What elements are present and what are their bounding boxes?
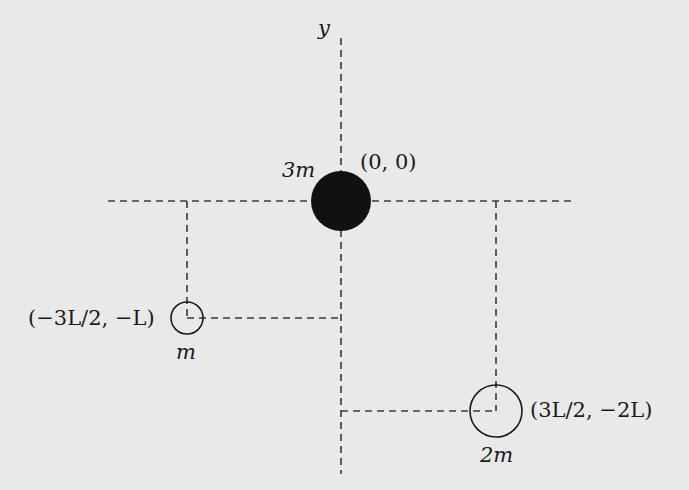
coord-label-left-mass: (−3L/2, −L) [28,308,155,329]
mass-label-m: m [176,342,196,363]
mass-label-3m: 3m [282,160,315,181]
y-axis-label: y [318,18,330,39]
coord-label-origin: (0, 0) [360,152,416,173]
mass-3m-filled-circle [311,171,371,231]
coord-label-right-mass: (3L/2, −2L) [530,400,652,421]
mass-label-2m: 2m [480,445,513,466]
